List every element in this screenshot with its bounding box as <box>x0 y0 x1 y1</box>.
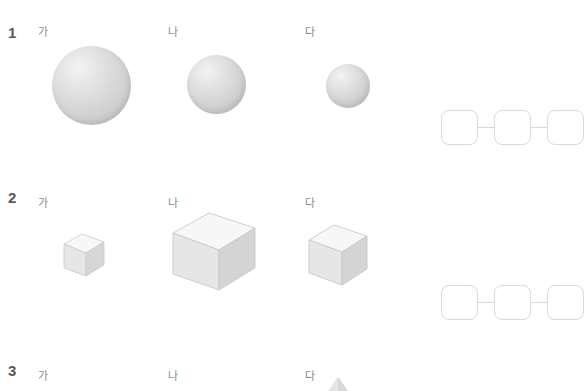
chain-box[interactable] <box>547 110 584 145</box>
row-2-item-2-label: 나 <box>168 198 178 209</box>
chain-connector <box>478 302 494 303</box>
cube-large <box>171 211 257 293</box>
sphere-medium <box>187 55 246 114</box>
chain-connector <box>531 302 547 303</box>
row-1-item-3-label: 다 <box>305 27 315 38</box>
row-3-item-2-label: 나 <box>168 371 178 382</box>
row-2-item-1-label: 가 <box>38 198 48 209</box>
chain-connector <box>478 127 494 128</box>
chain-box[interactable] <box>547 285 584 320</box>
sphere-small <box>326 64 370 108</box>
row-2-item-3-label: 다 <box>305 198 315 209</box>
cube-small <box>62 232 106 280</box>
row-3-item-1-label: 가 <box>38 371 48 382</box>
row-1-number: 1 <box>8 25 16 40</box>
row-1-item-2-label: 나 <box>168 27 178 38</box>
row-3-number: 3 <box>8 363 16 378</box>
chain-box[interactable] <box>441 285 478 320</box>
chain-connector <box>531 127 547 128</box>
cube-medium <box>307 223 369 289</box>
chain-box[interactable] <box>494 285 531 320</box>
row-2-number: 2 <box>8 190 16 205</box>
row-1-box-chain <box>441 110 584 145</box>
chain-box[interactable] <box>441 110 478 145</box>
cone-partial <box>325 377 351 391</box>
row-2-box-chain <box>441 285 584 320</box>
chain-box[interactable] <box>494 110 531 145</box>
sphere-large <box>52 46 131 125</box>
row-1-item-1-label: 가 <box>38 27 48 38</box>
row-3-item-3-label: 다 <box>305 371 315 382</box>
